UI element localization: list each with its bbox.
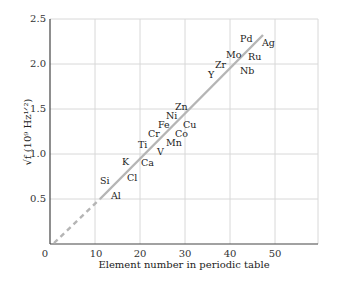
label-Ag: Ag bbox=[261, 37, 275, 48]
label-Zn: Zn bbox=[175, 101, 188, 112]
y-tick-0.5: 0.5 bbox=[30, 193, 46, 204]
label-Al: Al bbox=[110, 190, 121, 201]
element-labels: Al Si Cl K Ca Ti V Cr Mn Fe Co Ni Cu Zn … bbox=[100, 33, 275, 201]
label-Si: Si bbox=[100, 175, 110, 186]
x-tick-10: 10 bbox=[90, 248, 103, 259]
label-V: V bbox=[156, 146, 164, 157]
y-axis-label-root: √f bbox=[22, 154, 33, 165]
label-Ru: Ru bbox=[248, 51, 261, 62]
label-Cu: Cu bbox=[183, 119, 196, 130]
x-tick-30: 30 bbox=[179, 248, 192, 259]
label-Pd: Pd bbox=[240, 33, 252, 44]
x-axis-label: Element number in periodic table bbox=[98, 259, 269, 270]
label-Zr: Zr bbox=[215, 59, 227, 70]
label-K: K bbox=[122, 156, 130, 167]
y-tick-2.5: 2.5 bbox=[30, 13, 46, 24]
x-tick-20: 20 bbox=[134, 248, 147, 259]
label-Ca: Ca bbox=[141, 157, 154, 168]
x-tick-50: 50 bbox=[269, 248, 282, 259]
y-axis-label: √f(10⁹ Hz¹ᐟ²) bbox=[22, 99, 33, 166]
x-tick-0: 0 bbox=[42, 248, 48, 259]
label-Mo: Mo bbox=[226, 49, 242, 60]
label-Cl: Cl bbox=[127, 172, 137, 183]
extrapolation-dashed-line bbox=[54, 199, 100, 243]
x-tick-40: 40 bbox=[224, 248, 237, 259]
label-Ti: Ti bbox=[138, 139, 147, 150]
y-axis-label-units: (10⁹ Hz¹ᐟ²) bbox=[22, 99, 33, 153]
y-tick-2.0: 2.0 bbox=[30, 58, 46, 69]
label-Y: Y bbox=[207, 69, 215, 80]
x-tick-labels: 0 10 20 30 40 50 bbox=[42, 248, 282, 259]
label-Nb: Nb bbox=[240, 65, 254, 76]
moseley-chart: 2.5 2.0 1.5 1.0 0.5 0 10 20 30 40 50 Ele… bbox=[0, 0, 338, 284]
